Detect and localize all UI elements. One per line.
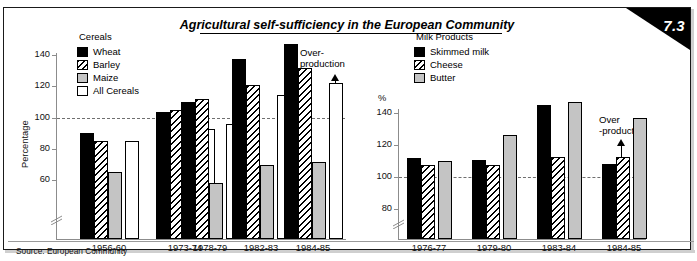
legend-label-all-cereals: All Cereals: [93, 85, 139, 96]
bar-wheat-1978-79: [181, 102, 195, 239]
bar-barley-1956-60: [94, 141, 108, 239]
milk-group-label-1979-80: 1979-80: [461, 242, 527, 253]
legend-item-barley: Barley: [77, 58, 139, 71]
bar-wheat-1982-83: [232, 59, 246, 239]
cereals-overproduction-line1: Over-: [300, 47, 345, 58]
milk-tick-140: [394, 113, 399, 114]
bar-wheat-1956-60: [80, 133, 94, 239]
cereals-tick-60: [52, 180, 57, 181]
legend-item-skimmed-milk: Skimmed milk: [414, 45, 489, 58]
cereals-y-axis-line: [56, 53, 57, 239]
bar-wheat-1984-85: [284, 44, 298, 239]
milk-legend: Milk Products Skimmed milk Cheese Butter: [414, 31, 489, 84]
cereals-axis-break-icon: [51, 213, 62, 225]
milk-x-axis-line: [398, 239, 646, 240]
bar-butter-1983-84: [568, 102, 582, 239]
bar-all-cereals-1984-85: [329, 83, 343, 239]
bar-cheese-1984-85: [616, 157, 630, 239]
milk-axis-break-icon: [393, 217, 404, 229]
swatch-butter-icon: [414, 73, 425, 83]
figure-frame: Agricultural self-sufficiency in the Eur…: [3, 7, 691, 250]
legend-item-cheese: Cheese: [414, 58, 489, 71]
legend-item-wheat: Wheat: [77, 45, 139, 58]
bar-wheat-1973-74: [156, 112, 170, 239]
cereals-ticklabel-140: 140: [24, 49, 50, 59]
cereals-overproduction-label: Over- production: [300, 47, 345, 69]
bar-maize-1982-83: [260, 165, 274, 239]
swatch-skimmed-milk-icon: [414, 47, 425, 57]
legend-item-maize: Maize: [77, 71, 139, 84]
bar-barley-1984-85: [298, 68, 312, 239]
bar-butter-1976-77: [438, 161, 452, 239]
bar-all-cereals-1956-60: [125, 141, 139, 239]
bar-maize-1956-60: [108, 172, 122, 239]
screenshot-root: Agricultural self-sufficiency in the Eur…: [0, 0, 697, 261]
milk-ticklabel-100: 100: [366, 171, 392, 181]
cereals-tick-140: [52, 55, 57, 56]
bar-cheese-1979-80: [486, 165, 500, 239]
legend-label-maize: Maize: [93, 72, 118, 83]
bar-cheese-1976-77: [421, 165, 435, 239]
bar-skimmed-milk-1976-77: [407, 158, 421, 239]
swatch-wheat-icon: [77, 47, 88, 57]
cereals-tick-120: [52, 86, 57, 87]
bar-skimmed-milk-1984-85: [602, 164, 616, 239]
bar-maize-1978-79: [209, 183, 223, 239]
cereals-ticklabel-100: 100: [24, 112, 50, 122]
bar-skimmed-milk-1983-84: [537, 105, 551, 239]
cereals-legend-title: Cereals: [79, 31, 139, 42]
legend-label-wheat: Wheat: [93, 46, 120, 57]
cereals-panel: Cereals Wheat Barley Maize All Cereals: [4, 8, 364, 251]
legend-label-butter: Butter: [430, 72, 455, 83]
bar-cheese-1983-84: [551, 157, 565, 239]
cereals-x-axis-line: [56, 239, 346, 240]
bar-barley-1982-83: [246, 85, 260, 239]
bar-skimmed-milk-1979-80: [472, 160, 486, 239]
milk-panel: Milk Products Skimmed milk Cheese Butter…: [359, 8, 692, 251]
milk-group-label-1984-85: 1984-85: [591, 242, 657, 253]
bar-butter-1984-85: [633, 118, 647, 239]
legend-item-all-cereals: All Cereals: [77, 84, 139, 97]
bar-barley-1978-79: [195, 99, 209, 239]
swatch-maize-icon: [77, 73, 88, 83]
legend-label-skimmed-milk: Skimmed milk: [430, 46, 489, 57]
legend-label-cheese: Cheese: [430, 59, 463, 70]
cereals-tick-80: [52, 149, 57, 150]
milk-ticklabel-140: 140: [366, 107, 392, 117]
milk-tick-120: [394, 145, 399, 146]
milk-tick-80: [394, 209, 399, 210]
cereals-ticklabel-120: 120: [24, 80, 50, 90]
source-divider: [8, 241, 694, 242]
swatch-cheese-icon: [414, 60, 425, 70]
milk-ticklabel-120: 120: [366, 139, 392, 149]
swatch-all-cereals-icon: [77, 86, 88, 96]
bar-butter-1979-80: [503, 135, 517, 239]
milk-y-axis-unit: %: [378, 93, 386, 103]
bar-maize-1984-85: [312, 162, 326, 239]
milk-ticklabel-80: 80: [366, 203, 392, 213]
legend-item-butter: Butter: [414, 71, 489, 84]
milk-legend-title: Milk Products: [416, 31, 489, 42]
source-note: Source: European Community: [16, 246, 127, 256]
swatch-barley-icon: [77, 60, 88, 70]
cereals-ticklabel-60: 60: [24, 174, 50, 184]
milk-group-label-1976-77: 1976-77: [396, 242, 462, 253]
cereals-ticklabel-80: 80: [24, 143, 50, 153]
cereals-group-label-1984-85: 1984-85: [280, 242, 346, 253]
legend-label-barley: Barley: [93, 59, 120, 70]
milk-group-label-1983-84: 1983-84: [526, 242, 592, 253]
cereals-legend: Cereals Wheat Barley Maize All Cereals: [77, 31, 139, 97]
